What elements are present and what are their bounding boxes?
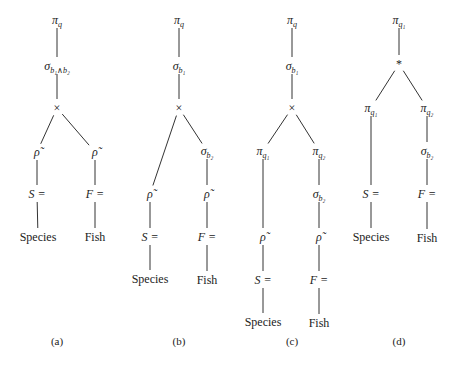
edge-a-x-rhoL <box>41 115 54 144</box>
node-c-root: πq <box>287 13 297 29</box>
node-b-root: πq <box>174 13 184 29</box>
node-d-fish: Fish <box>417 231 438 245</box>
edge-c-x-piR <box>296 115 314 144</box>
node-b-rhoR: ρ̃ <box>203 187 215 201</box>
caption-c: (c) <box>286 335 299 348</box>
node-a-fR: F = <box>85 187 104 201</box>
node-b-sel: σb₁ <box>173 59 186 75</box>
caption-b: (b) <box>173 335 186 348</box>
node-d-join: * <box>396 57 402 71</box>
node-c-sel: σb₁ <box>286 59 299 75</box>
node-c-fR: F = <box>309 273 328 287</box>
node-b-x: × <box>176 101 183 115</box>
caption-d: (d) <box>393 335 406 348</box>
node-d-species: Species <box>353 230 390 244</box>
node-c-rhoL: ρ̃ <box>259 230 271 244</box>
node-d-fR: F = <box>417 187 436 201</box>
node-a-x: × <box>54 101 61 115</box>
edge-b-x-rhoL <box>153 116 177 186</box>
node-b-fish: Fish <box>197 273 218 287</box>
node-a-rhoR: ρ̃ <box>91 145 103 159</box>
node-d-sL: S = <box>362 187 379 201</box>
node-b-sL: S = <box>141 230 158 244</box>
node-b-species: Species <box>132 272 169 286</box>
tree-nodes: πqσb₁∧b₂×ρ̃ρ̃S =F =SpeciesFishπqσb₁×σb₂ρ… <box>20 13 438 330</box>
edge-a-sL-species <box>37 202 38 228</box>
node-d-sel2: σb₂ <box>421 144 434 160</box>
node-a-rhoL: ρ̃ <box>33 145 45 159</box>
edge-c-x-piL <box>268 115 287 144</box>
node-c-sel2: σb₂ <box>313 187 326 203</box>
node-a-root: πq <box>52 13 62 29</box>
edge-b-x-sel2 <box>183 115 202 144</box>
node-a-sL: S = <box>28 187 45 201</box>
node-b-fR: F = <box>197 230 216 244</box>
node-b-sel2: σb₂ <box>201 144 214 160</box>
tree-edges <box>37 28 427 314</box>
caption-a: (a) <box>51 335 64 348</box>
node-c-sL: S = <box>254 273 271 287</box>
tree-captions: (a) (b) (c) (d) <box>51 335 406 348</box>
edge-d-join-piL <box>376 71 395 101</box>
edge-a-x-rhoR <box>62 114 89 145</box>
node-a-fish: Fish <box>85 230 106 244</box>
node-d-root: πq₁ <box>393 13 406 29</box>
node-c-piL: πq₁ <box>257 144 270 160</box>
node-a-species: Species <box>20 230 57 244</box>
node-b-rhoL: ρ̃ <box>146 187 158 201</box>
node-a-sel: σb₁∧b₂ <box>44 59 70 75</box>
node-d-piR: πq₂ <box>421 101 434 117</box>
node-c-x: × <box>289 101 296 115</box>
node-c-species: Species <box>245 315 282 329</box>
node-c-fish: Fish <box>309 316 330 330</box>
node-d-piL: πq₁ <box>365 101 378 117</box>
node-c-rhoR: ρ̃ <box>315 230 327 244</box>
edge-d-join-piR <box>403 71 422 101</box>
node-c-piR: πq₂ <box>313 144 326 160</box>
query-tree-diagram: πqσb₁∧b₂×ρ̃ρ̃S =F =SpeciesFishπqσb₁×σb₂ρ… <box>0 0 456 367</box>
